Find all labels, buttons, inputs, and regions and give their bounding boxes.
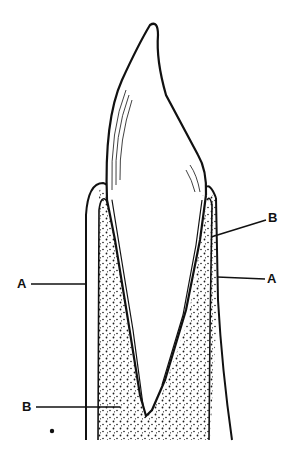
tooth-socket-drawing — [0, 0, 300, 459]
leader-B-upper — [211, 220, 266, 237]
tooth-crown — [107, 24, 207, 200]
leader-A-right — [217, 277, 265, 279]
label-B-upper: B — [268, 211, 277, 224]
stray-dot-mark — [50, 429, 54, 433]
label-B-lower: B — [22, 400, 31, 413]
label-A-right: A — [267, 272, 276, 285]
label-A-left: A — [17, 277, 26, 290]
